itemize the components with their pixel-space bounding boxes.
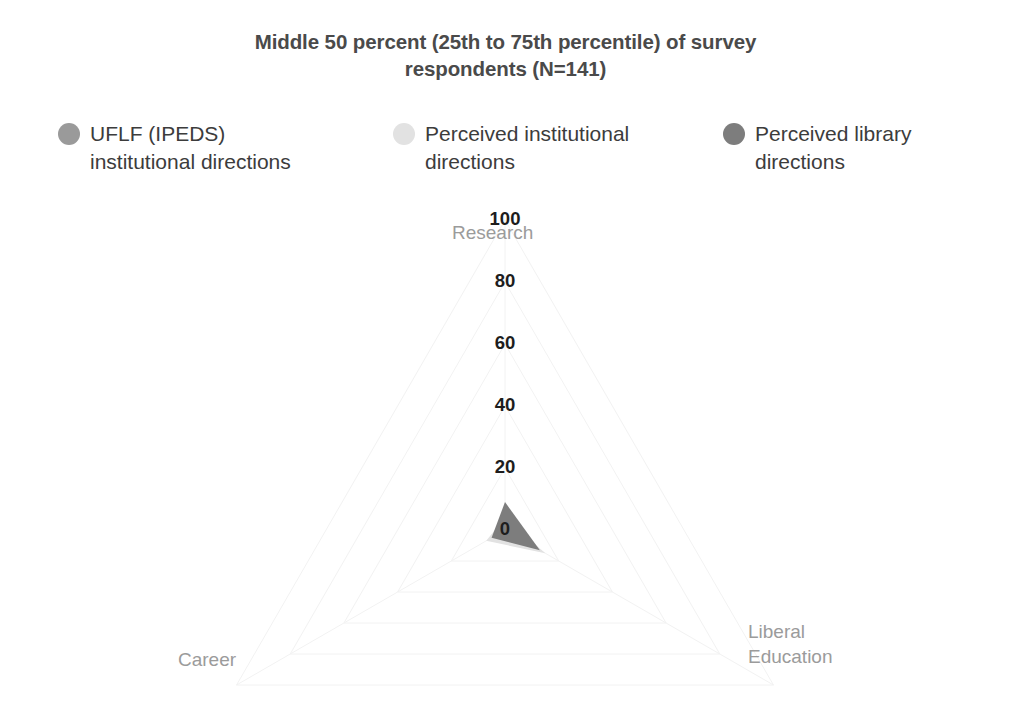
radar-chart: Middle 50 percent (25th to 75th percenti… bbox=[0, 0, 1011, 719]
radial-tick-label: 40 bbox=[475, 394, 535, 416]
radial-tick-label: 20 bbox=[475, 456, 535, 478]
radial-tick-label: 60 bbox=[475, 332, 535, 354]
radial-tick-label: 80 bbox=[475, 270, 535, 292]
axis-label-liberal-education: Liberal Education bbox=[748, 620, 833, 669]
radial-tick-label: 0 bbox=[475, 518, 535, 540]
radar-plot-area bbox=[0, 0, 1011, 719]
radial-tick-label: 100 bbox=[475, 208, 535, 230]
grid-spoke bbox=[237, 530, 505, 685]
axis-label-career: Career bbox=[178, 648, 236, 673]
